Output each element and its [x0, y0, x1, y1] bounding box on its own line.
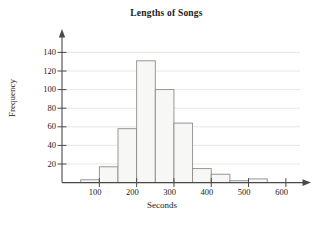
bar-400-450: [211, 174, 230, 182]
bar-200-250: [137, 61, 156, 183]
bar-100-150: [99, 167, 118, 183]
plot-area: [0, 0, 333, 226]
bar-300-350: [174, 123, 193, 183]
bar-350-400: [193, 169, 212, 183]
bar-500-550: [249, 179, 268, 183]
histogram-figure: Lengths of Songs Frequency Seconds 140 1…: [0, 0, 333, 226]
y-axis-arrow-icon: [59, 29, 65, 38]
x-axis-arrow-icon: [303, 179, 312, 186]
bar-150-200: [118, 129, 137, 183]
bar-250-300: [155, 90, 174, 183]
